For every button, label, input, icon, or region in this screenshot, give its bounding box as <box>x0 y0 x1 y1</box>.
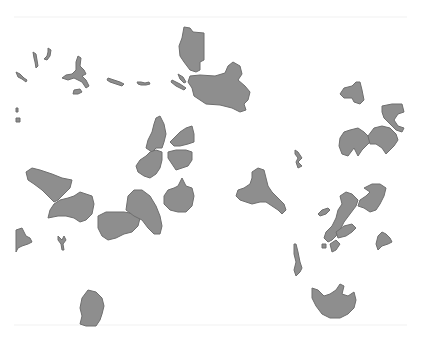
map-feature-top-center-spit-1 <box>178 74 186 83</box>
map-feature-right-chain-upper <box>358 184 386 212</box>
map-feature-mid-right-round <box>164 178 194 212</box>
map-feature-right-chain-small <box>322 244 326 248</box>
map-feature-mid-right-upper <box>170 126 194 146</box>
map-feature-east-cluster-left <box>339 128 370 156</box>
map-feature-mid-right-lower <box>168 150 192 170</box>
map-feature-south-sliver <box>294 244 302 276</box>
map-feature-far-right-lake <box>376 232 392 250</box>
map-feature-nw-dash-2 <box>137 82 150 85</box>
map-feature-mid-sliver-main <box>136 150 162 178</box>
map-feature-nw-dash-1 <box>107 78 124 86</box>
map-feature-central-wisp <box>295 150 302 168</box>
map-feature-nw-channel-1 <box>16 72 27 82</box>
map-feature-central-lake <box>236 168 286 214</box>
map-feature-nw-edge-2 <box>16 118 20 122</box>
map-feature-south-west-lake <box>80 290 104 326</box>
map-feature-nw-small-lake <box>73 89 82 94</box>
map-feature-nw-channel-3 <box>44 48 51 60</box>
map-feature-nw-edge-1 <box>16 108 18 112</box>
map-feature-right-chain-lower <box>330 240 340 252</box>
map-feature-top-center-north <box>179 27 204 72</box>
map-feature-right-chain-tip <box>318 208 330 216</box>
map-feature-east-cluster-right <box>368 126 398 154</box>
map-feature-south-east-lake <box>312 284 356 318</box>
map-feature-nw-lake-branch <box>62 56 89 88</box>
map-feature-west-north <box>26 168 72 202</box>
map-feature-sw-edge <box>16 228 32 252</box>
map-feature-sw-fork <box>58 236 66 250</box>
map-feature-east-small <box>340 82 364 104</box>
map-feature-mid-sliver-north <box>146 116 166 152</box>
map-feature-nw-channel-2 <box>33 52 38 68</box>
map-features-layer <box>0 0 421 339</box>
map-canvas <box>0 0 421 339</box>
